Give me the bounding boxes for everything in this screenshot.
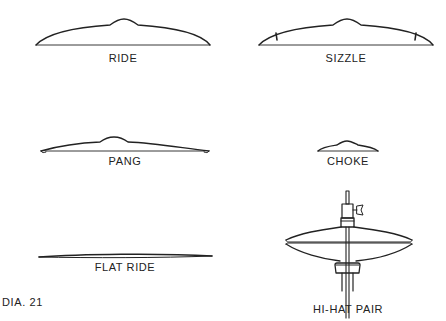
- hi-hat-pair-drawing: [286, 191, 412, 318]
- choke-cymbal-drawing: [318, 141, 378, 151]
- flat-ride-cymbal-drawing: [39, 254, 212, 257]
- sizzle-cymbal-drawing: [259, 19, 433, 45]
- label-hi-hat-pair: HI-HAT PAIR: [313, 303, 383, 315]
- label-choke: CHOKE: [327, 155, 369, 167]
- label-sizzle: SIZZLE: [326, 52, 367, 64]
- label-pang: PANG: [109, 155, 142, 167]
- ride-cymbal-drawing: [36, 19, 210, 45]
- label-flat-ride: FLAT RIDE: [95, 261, 156, 273]
- label-ride: RIDE: [109, 52, 138, 64]
- figure-caption: DIA. 21: [2, 296, 43, 308]
- rivet-right: [415, 33, 416, 40]
- cymbal-diagram: [0, 0, 446, 321]
- pang-cymbal-drawing: [41, 137, 209, 153]
- rivet-left: [276, 33, 277, 40]
